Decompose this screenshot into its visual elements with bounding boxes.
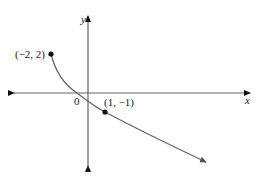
function-curve: [51, 54, 206, 162]
y-axis-label: y: [80, 13, 86, 25]
point-label-neg2-2: (−2, 2): [15, 48, 45, 61]
origin-label: 0: [74, 95, 80, 107]
point-neg2-2-dot: [48, 51, 53, 56]
graph-canvas: y x 0 (−2, 2) (1, −1): [0, 0, 261, 180]
x-axis-label: x: [244, 94, 250, 106]
point-label-1-neg1: (1, −1): [104, 96, 134, 109]
point-1-neg1-dot: [102, 109, 107, 114]
